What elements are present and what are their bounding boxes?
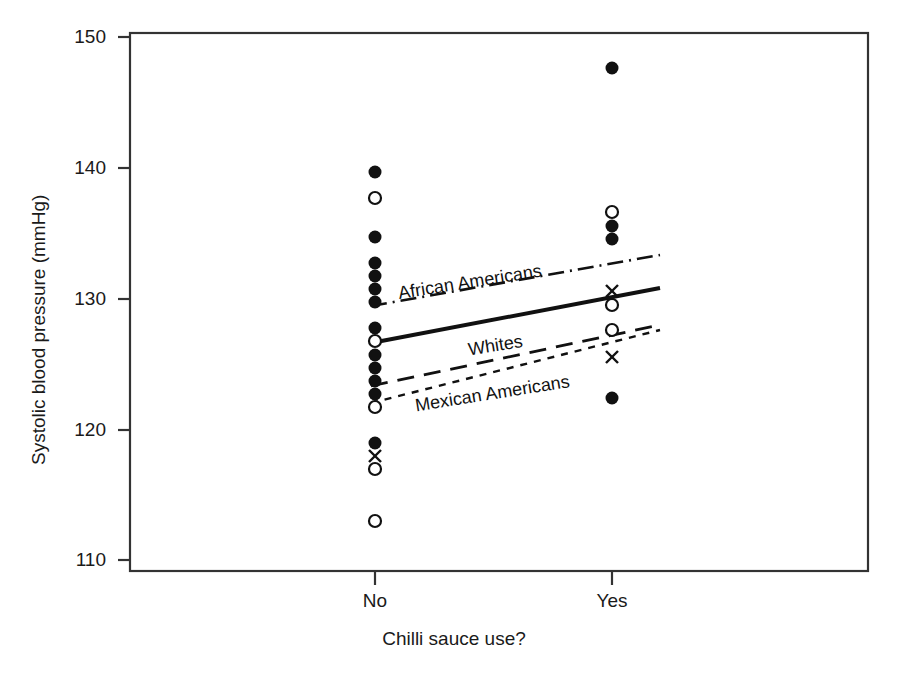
data-points-no bbox=[369, 166, 382, 528]
y-tick-label-130: 130 bbox=[46, 288, 106, 310]
point-filled-no-119 bbox=[369, 437, 382, 450]
point-open-no-122 bbox=[369, 401, 381, 413]
scatter-plot-canvas bbox=[0, 0, 908, 675]
point-filled-no-132 bbox=[369, 270, 382, 283]
point-open-no-127 bbox=[369, 335, 381, 347]
point-filled-no-131 bbox=[369, 283, 382, 296]
chart-figure: 150 140 130 120 110 No Yes Systolic bloo… bbox=[0, 0, 908, 675]
y-tick-label-150: 150 bbox=[46, 26, 106, 48]
point-filled-no-123 bbox=[369, 388, 382, 401]
data-points-yes bbox=[606, 62, 619, 405]
x-axis-title: Chilli sauce use? bbox=[0, 628, 908, 650]
point-filled-no-133 bbox=[369, 257, 382, 270]
point-cross-yes-126 bbox=[606, 351, 618, 363]
point-open-yes-137 bbox=[606, 206, 618, 218]
y-axis-title: Systolic blood pressure (mmHg) bbox=[28, 195, 50, 465]
y-tick-label-110: 110 bbox=[46, 549, 106, 571]
point-filled-yes-135 bbox=[606, 233, 619, 246]
y-tick-label-120: 120 bbox=[46, 419, 106, 441]
point-cross-no-118 bbox=[369, 450, 381, 462]
point-filled-yes-136 bbox=[606, 220, 619, 233]
point-filled-no-126 bbox=[369, 349, 382, 362]
plot-frame bbox=[130, 33, 868, 571]
point-filled-yes-148 bbox=[606, 62, 619, 75]
y-axis-ticks bbox=[118, 37, 130, 560]
x-tick-label-yes: Yes bbox=[572, 590, 652, 612]
point-filled-no-130 bbox=[369, 296, 382, 309]
point-filled-no-125 bbox=[369, 362, 382, 375]
point-open-no-138 bbox=[369, 192, 381, 204]
point-filled-no-128 bbox=[369, 322, 382, 335]
x-axis-ticks bbox=[375, 571, 612, 585]
point-filled-no-124 bbox=[369, 375, 382, 388]
point-open-no-113 bbox=[369, 515, 381, 527]
point-open-yes-130 bbox=[606, 299, 618, 311]
point-filled-no-135 bbox=[369, 231, 382, 244]
x-tick-label-no: No bbox=[335, 590, 415, 612]
y-tick-label-140: 140 bbox=[46, 157, 106, 179]
point-open-yes-128 bbox=[606, 324, 618, 336]
point-filled-no-140 bbox=[369, 166, 382, 179]
point-filled-yes-123 bbox=[606, 392, 619, 405]
point-open-no-117 bbox=[369, 463, 381, 475]
